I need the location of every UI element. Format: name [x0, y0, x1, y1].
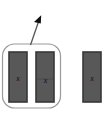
diagram-svg: x x x	[0, 0, 110, 113]
block-3-x-marker: x	[89, 74, 94, 83]
group-arrow[interactable]	[31, 15, 42, 45]
arrow-head-icon	[34, 15, 41, 23]
diagram-canvas: x x x	[0, 0, 110, 113]
block-1-x-marker: x	[15, 74, 20, 83]
block-3[interactable]: x	[83, 52, 101, 102]
block-1[interactable]: x	[9, 52, 27, 102]
block-2-x-marker: x	[43, 76, 48, 85]
block-2[interactable]: x	[36, 52, 54, 102]
arrow-shaft	[31, 22, 39, 46]
